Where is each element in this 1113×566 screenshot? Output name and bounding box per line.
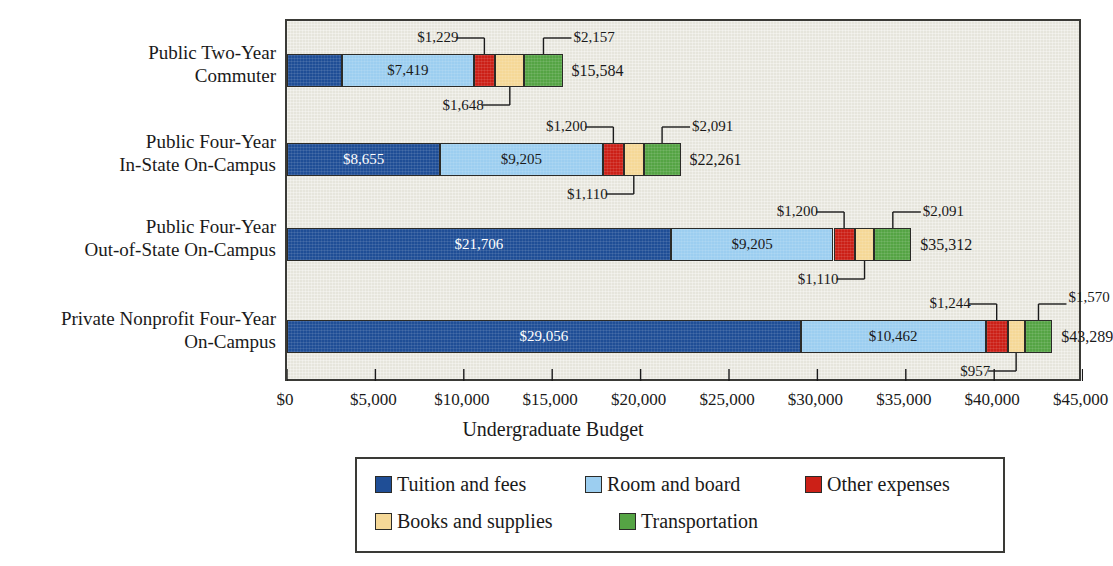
bar-total-label: $43,289 — [1061, 320, 1113, 353]
category-label: Public Four-YearIn-State On-Campus — [0, 130, 276, 176]
segment-texture — [987, 321, 1007, 352]
segment-value-label: $7,419 — [387, 62, 428, 79]
callout-other-expenses: $1,200 — [533, 119, 587, 134]
plot-area: $15,584$7,419$22,261$8,655$9,205$35,312$… — [285, 19, 1081, 381]
legend-item-label: Books and supplies — [397, 510, 553, 533]
segment-texture — [475, 55, 495, 86]
segment-texture — [1026, 321, 1052, 352]
category-label: Private Nonprofit Four-YearOn-Campus — [0, 307, 276, 353]
legend: Tuition and feesRoom and boardOther expe… — [355, 457, 1005, 553]
legend-item[interactable]: Other expenses — [805, 473, 950, 496]
bar-segment — [287, 54, 342, 87]
category-label: Public Two-YearCommuter — [0, 41, 276, 87]
bar-segment — [1008, 320, 1025, 353]
segment-value-label: $9,205 — [501, 151, 542, 168]
callout-transportation: $2,091 — [923, 204, 964, 219]
segment-value-label: $8,655 — [343, 151, 384, 168]
bar-segment — [986, 320, 1008, 353]
bar-segment — [524, 54, 562, 87]
segment-texture — [645, 144, 680, 175]
segment-value-label: $29,056 — [519, 328, 568, 345]
bar-segment — [474, 54, 496, 87]
x-tick-label: $25,000 — [699, 390, 754, 410]
category-label: Public Four-YearOut-of-State On-Campus — [0, 215, 276, 261]
callout-books-and-supplies: $957 — [936, 364, 990, 379]
callout-other-expenses: $1,229 — [404, 30, 458, 45]
bar-segment: $29,056 — [287, 320, 801, 353]
segment-value-label: $10,462 — [869, 328, 918, 345]
legend-item-label: Tuition and fees — [397, 473, 526, 496]
callout-transportation: $2,091 — [692, 119, 733, 134]
category-label-line1: Public Two-Year — [0, 41, 276, 64]
legend-swatch-icon — [619, 513, 636, 530]
callout-books-and-supplies: $1,110 — [785, 272, 839, 287]
bar-segment: $21,706 — [287, 228, 671, 261]
callout-other-expenses: $1,244 — [917, 296, 971, 311]
legend-swatch-icon — [585, 476, 602, 493]
bar-segment — [495, 54, 524, 87]
segment-texture — [625, 144, 643, 175]
x-tick-label: $5,000 — [350, 390, 397, 410]
segment-texture — [1009, 321, 1024, 352]
category-label-line2: Commuter — [0, 64, 276, 87]
x-tick-label: $10,000 — [434, 390, 489, 410]
bar-total-label: $35,312 — [920, 228, 972, 261]
segment-texture — [604, 144, 623, 175]
legend-item[interactable]: Transportation — [619, 510, 758, 533]
legend-item[interactable]: Tuition and fees — [375, 473, 526, 496]
x-tick-label: $45,000 — [1053, 390, 1108, 410]
category-label-line1: Public Four-Year — [0, 215, 276, 238]
segment-value-label: $21,706 — [455, 236, 504, 253]
x-tick-label: $15,000 — [523, 390, 578, 410]
category-label-line1: Public Four-Year — [0, 130, 276, 153]
legend-item-label: Transportation — [641, 510, 758, 533]
legend-swatch-icon — [805, 476, 822, 493]
legend-item[interactable]: Room and board — [585, 473, 740, 496]
bar-segment — [874, 228, 911, 261]
bar-total-label: $15,584 — [572, 54, 624, 87]
x-tick-label: $40,000 — [965, 390, 1020, 410]
bar-segment — [624, 143, 644, 176]
segment-texture — [856, 229, 874, 260]
x-tick-label: $0 — [277, 390, 294, 410]
legend-item-label: Other expenses — [827, 473, 950, 496]
legend-item[interactable]: Books and supplies — [375, 510, 553, 533]
legend-item-label: Room and board — [607, 473, 740, 496]
bar-total-label: $22,261 — [690, 143, 742, 176]
callout-books-and-supplies: $1,110 — [554, 187, 608, 202]
category-label-line2: On-Campus — [0, 330, 276, 353]
bar-segment: $9,205 — [440, 143, 603, 176]
segment-texture — [835, 229, 854, 260]
x-tick-label: $30,000 — [788, 390, 843, 410]
segment-texture — [875, 229, 910, 260]
x-axis-title: Undergraduate Budget — [0, 418, 1106, 441]
legend-swatch-icon — [375, 513, 392, 530]
x-tick-label: $20,000 — [611, 390, 666, 410]
legend-swatch-icon — [375, 476, 392, 493]
bar-segment — [1025, 320, 1053, 353]
x-tick-label: $35,000 — [876, 390, 931, 410]
category-label-line2: In-State On-Campus — [0, 153, 276, 176]
category-label-line1: Private Nonprofit Four-Year — [0, 307, 276, 330]
callout-other-expenses: $1,200 — [764, 204, 818, 219]
bar-segment: $8,655 — [287, 143, 440, 176]
segment-texture — [288, 55, 341, 86]
callout-transportation: $2,157 — [573, 30, 614, 45]
segment-value-label: $9,205 — [731, 236, 772, 253]
bar-segment — [603, 143, 624, 176]
callout-transportation: $1,570 — [1068, 290, 1109, 305]
segment-texture — [496, 55, 523, 86]
bar-segment — [855, 228, 875, 261]
bar-segment — [834, 228, 855, 261]
category-label-line2: Out-of-State On-Campus — [0, 238, 276, 261]
bar-segment: $7,419 — [342, 54, 473, 87]
bar-segment: $9,205 — [671, 228, 834, 261]
segment-texture — [525, 55, 561, 86]
callout-books-and-supplies: $1,648 — [430, 98, 484, 113]
bar-segment: $10,462 — [801, 320, 986, 353]
bar-segment — [644, 143, 681, 176]
